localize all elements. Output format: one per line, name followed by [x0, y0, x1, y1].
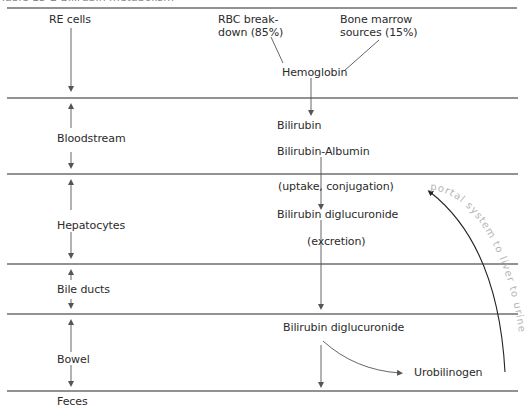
label-excretion: (excretion) — [307, 235, 366, 248]
label-urobilinogen: Urobilinogen — [414, 366, 482, 379]
compartment-rules — [7, 8, 518, 391]
diagram-lines: portal system to liver to urine — [0, 0, 530, 412]
compartment-hepatocytes: Hepatocytes — [57, 219, 125, 232]
compartment-bile-ducts: Bile ducts — [57, 283, 110, 296]
compartment-feces: Feces — [57, 395, 88, 408]
compartment-bowel: Bowel — [57, 353, 90, 366]
compartment-bloodstream: Bloodstream — [57, 132, 126, 145]
label-hemoglobin: Hemoglobin — [282, 66, 347, 79]
label-bilirubin: Bilirubin — [277, 119, 321, 132]
bilirubin-metabolism-diagram: Table 15-2 Bilirubin metabolism — [0, 0, 530, 412]
handwritten-note: portal system to liver to urine — [430, 181, 528, 334]
enterohepatic-return-curve — [430, 192, 505, 372]
label-bilirubin-diglucuronide-liver: Bilirubin diglucuronide — [277, 208, 398, 221]
label-bilirubin-albumin: Bilirubin-Albumin — [277, 145, 370, 158]
central-flow-arrows — [311, 78, 400, 385]
compartment-re-cells: RE cells — [49, 13, 91, 26]
label-bilirubin-diglucuronide-bowel: Bilirubin diglucuronide — [283, 321, 404, 334]
source-rbc-breakdown: RBC break- down (85%) — [218, 13, 283, 39]
source-bone-marrow: Bone marrow sources (15%) — [340, 13, 418, 39]
label-uptake-conjugation: (uptake, conjugation) — [278, 180, 394, 193]
